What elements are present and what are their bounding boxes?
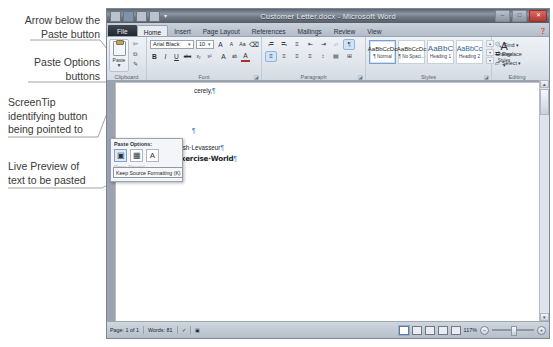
title-bar: ▾ Customer Letter.docx - Microsoft Word … <box>107 9 549 23</box>
grow-font-icon[interactable]: A <box>216 40 225 49</box>
numbering-icon[interactable]: ≕ <box>278 39 290 50</box>
increase-indent-icon[interactable]: ⇥ <box>317 39 329 50</box>
bold-button[interactable]: B <box>150 52 159 61</box>
full-screen-view-icon[interactable] <box>412 326 422 335</box>
tab-insert[interactable]: Insert <box>168 25 197 36</box>
shrink-font-icon[interactable]: A <box>227 40 236 49</box>
proofing-icon[interactable]: ✓ <box>182 327 186 333</box>
replace-button[interactable]: ⇄ Replace <box>495 49 540 58</box>
select-icon: ▱ <box>495 59 500 66</box>
zoom-level[interactable]: 117% <box>464 327 477 333</box>
style-heading-1[interactable]: AaBbC Heading 1 <box>427 40 454 64</box>
draft-view-icon[interactable] <box>451 326 461 335</box>
sort-icon[interactable]: ↓↑ <box>330 39 342 50</box>
decrease-indent-icon[interactable]: ⇤ <box>304 39 316 50</box>
replace-label: Replace <box>502 51 522 57</box>
style-name: Heading 2 <box>459 54 480 60</box>
find-button[interactable]: 🔍 Find ▾ <box>495 40 540 49</box>
style-sample: AaBbCcDc <box>397 45 426 53</box>
align-left-icon[interactable]: ≡ <box>265 51 277 62</box>
shading-icon[interactable]: ▤ <box>330 51 342 62</box>
font-size-combobox[interactable]: 10 ▾ <box>196 40 214 49</box>
merge-formatting-icon[interactable]: ▦ <box>130 149 143 162</box>
document-line-4-live-preview: Exercise·World¶ <box>176 154 237 163</box>
macro-icon[interactable]: ▣ <box>195 327 200 333</box>
outline-view-icon[interactable] <box>438 326 448 335</box>
document-page[interactable]: cerely,¶ ¶ Josh·Levasseur¶ Exercise·Worl… <box>115 82 540 321</box>
superscript-button[interactable]: x² <box>205 52 214 61</box>
font-name-chevron-down-icon[interactable]: ▾ <box>188 40 191 49</box>
copy-icon[interactable]: ⧉ <box>131 50 139 58</box>
select-button[interactable]: ▱ Select ▾ <box>495 58 540 67</box>
zoom-slider-knob[interactable] <box>511 326 517 336</box>
scroll-down-icon[interactable]: ▾ <box>540 313 549 321</box>
font-color-icon[interactable]: A <box>241 51 250 62</box>
tab-references[interactable]: References <box>246 25 292 36</box>
close-button[interactable]: ✕ <box>529 10 547 22</box>
ribbon-group-clipboard: Paste ▼ ✄ ⧉ ✎ Clipboard <box>107 37 147 81</box>
paste-dropdown-chevron-down-icon[interactable]: ▼ <box>117 63 122 67</box>
page-indicator[interactable]: Page: 1 of 1 <box>110 327 139 333</box>
align-right-icon[interactable]: ≡ <box>291 51 303 62</box>
zoom-out-button[interactable]: – <box>480 326 489 335</box>
vertical-scrollbar[interactable]: ▴ ▾ <box>539 80 549 321</box>
multilevel-list-icon[interactable]: ≡ <box>291 39 303 50</box>
line-text: Exercise·World <box>176 154 234 163</box>
font-size-chevron-down-icon[interactable]: ▾ <box>208 40 211 49</box>
status-bar: Page: 1 of 1 Words: 81 ✓ ▣ 117% – + <box>107 321 549 338</box>
cut-scissors-icon[interactable]: ✄ <box>131 40 139 48</box>
restore-button[interactable]: □ <box>512 10 527 22</box>
ribbon-tabs[interactable]: File Home Insert Page Layout References … <box>107 23 549 37</box>
change-case-icon[interactable]: Aa <box>238 40 247 49</box>
tab-review[interactable]: Review <box>328 25 362 36</box>
zoom-slider[interactable] <box>492 329 534 331</box>
style-normal[interactable]: AaBbCcDc ¶ Normal <box>369 40 396 64</box>
line-spacing-icon[interactable]: ↕ <box>317 51 329 62</box>
print-layout-view-icon[interactable] <box>399 326 409 335</box>
paste-options-popup[interactable]: Paste Options: ▣ ▦ A Paste Special... Se… <box>110 138 183 182</box>
paste-button[interactable]: Paste ▼ <box>109 39 129 72</box>
window-controls[interactable]: – □ ✕ <box>495 10 547 22</box>
tab-mailings[interactable]: Mailings <box>291 25 327 36</box>
font-name-value: Arial Black <box>153 40 179 49</box>
borders-icon[interactable]: ⊞ <box>343 51 355 62</box>
show-formatting-marks-icon[interactable]: ¶ <box>343 39 355 50</box>
scroll-up-icon[interactable]: ▴ <box>540 80 549 88</box>
tab-home[interactable]: Home <box>137 25 169 36</box>
minimize-button[interactable]: – <box>495 10 510 22</box>
subscript-button[interactable]: x₂ <box>194 52 203 61</box>
font-name-combobox[interactable]: Arial Black ▾ <box>150 40 194 49</box>
word-count[interactable]: Words: 81 <box>148 327 172 333</box>
tab-file[interactable]: File <box>108 25 137 36</box>
italic-button[interactable]: I <box>161 52 170 61</box>
text-effects-icon[interactable]: A <box>219 52 228 61</box>
bullets-icon[interactable]: ≔ <box>265 39 277 50</box>
style-name: ¶ Normal <box>373 54 392 60</box>
web-layout-view-icon[interactable] <box>425 326 435 335</box>
tab-page-layout[interactable]: Page Layout <box>197 25 246 36</box>
annotation-paste-options-buttons: Paste Options buttons <box>8 56 100 83</box>
status-divider <box>190 326 191 334</box>
zoom-in-button[interactable]: + <box>537 326 546 335</box>
justify-icon[interactable]: ≡ <box>304 51 316 62</box>
annotation-screentip: ScreenTip identifying button being point… <box>8 96 104 137</box>
scrollbar-thumb[interactable] <box>540 89 549 115</box>
help-icon[interactable]: ❓ <box>539 27 546 34</box>
style-heading-2[interactable]: AaBbCc Heading 2 <box>456 40 483 64</box>
style-no-spacing[interactable]: AaBbCcDc ¶ No Spaci... <box>398 40 425 64</box>
keep-source-formatting-icon[interactable]: ▣ <box>114 149 127 162</box>
document-area[interactable]: cerely,¶ ¶ Josh·Levasseur¶ Exercise·Worl… <box>107 80 549 321</box>
align-center-icon[interactable]: ≡ <box>278 51 290 62</box>
highlight-color-icon[interactable]: ab <box>230 52 239 61</box>
clear-formatting-icon[interactable]: ⌫ <box>249 40 258 49</box>
keep-text-only-icon[interactable]: A <box>146 149 159 162</box>
underline-button[interactable]: U <box>172 52 181 61</box>
style-sample: AaBbCcDc <box>368 45 397 53</box>
tab-view[interactable]: View <box>361 25 387 36</box>
format-painter-icon[interactable]: ✎ <box>131 60 139 68</box>
paste-options-buttons[interactable]: ▣ ▦ A <box>114 149 179 162</box>
screentip-tooltip: Keep Source Formatting (K) <box>113 167 183 178</box>
window-title: Customer Letter.docx - Microsoft Word <box>107 12 549 21</box>
strikethrough-button[interactable]: abc <box>183 52 192 61</box>
font-size-value: 10 <box>199 40 205 49</box>
